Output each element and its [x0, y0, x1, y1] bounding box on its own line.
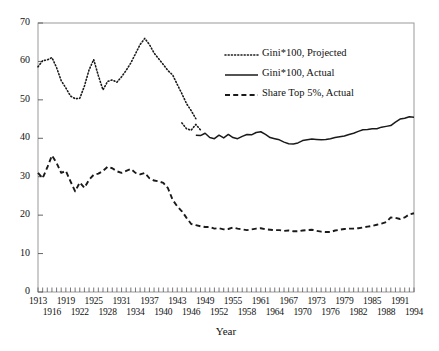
y-tick-label: 60 [4, 54, 30, 65]
x-tick-label: 1994 [397, 307, 431, 317]
y-tick-label: 50 [4, 93, 30, 104]
series-line [182, 123, 201, 130]
y-tick-label: 70 [4, 16, 30, 27]
y-tick-label: 10 [4, 247, 30, 258]
legend-label: Gini*100, Projected [262, 47, 347, 58]
legend-line-samples [225, 55, 258, 95]
y-tick-label: 0 [4, 285, 30, 296]
series-line [196, 117, 414, 144]
y-tick-label: 40 [4, 131, 30, 142]
data-series-group [38, 38, 414, 232]
legend-label: Share Top 5%, Actual [262, 87, 354, 98]
chart-container: 010203040506070 191319191925193119371943… [0, 0, 439, 351]
series-line [38, 38, 196, 118]
legend-label: Gini*100, Actual [262, 67, 334, 78]
y-tick-label: 20 [4, 208, 30, 219]
series-line [38, 156, 414, 232]
x-axis-title: Year [196, 325, 256, 337]
x-tick-label: 1991 [383, 296, 417, 306]
y-tick-label: 30 [4, 170, 30, 181]
